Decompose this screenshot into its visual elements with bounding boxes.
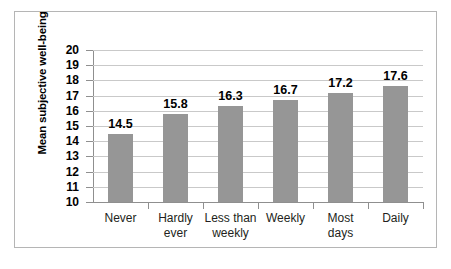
y-axis-tick-label: 15 — [57, 119, 79, 133]
x-axis-tick-mark — [148, 202, 149, 209]
y-axis-tick-label: 13 — [57, 149, 79, 163]
x-axis-tick-mark — [258, 202, 259, 209]
x-axis-category-label-line: Most — [313, 211, 368, 226]
bar[interactable] — [218, 106, 243, 202]
bar-value-label: 15.8 — [151, 97, 201, 111]
y-axis-tick-label: 20 — [57, 43, 79, 57]
bar[interactable] — [328, 93, 353, 202]
y-axis-tick-label: 11 — [57, 180, 79, 194]
x-axis-category-label[interactable]: Hardlyever — [148, 211, 203, 241]
chart-figure: Mean subjective well-being 2019181716151… — [0, 0, 451, 269]
x-axis-tick-mark — [368, 202, 369, 209]
x-axis-category-label-line: Daily — [368, 211, 423, 226]
x-axis-category-label-line: Less than — [203, 211, 258, 226]
gridline — [93, 156, 423, 157]
bar-value-label: 16.7 — [261, 83, 311, 97]
x-axis-category-label-line: weekly — [203, 226, 258, 241]
x-axis-category-label[interactable]: Daily — [368, 211, 423, 226]
x-axis-tick-mark — [423, 202, 424, 209]
gridline — [93, 141, 423, 142]
y-axis-tick-labels: 2019181716151413121110 — [57, 43, 79, 209]
bar[interactable] — [273, 100, 298, 202]
bar[interactable] — [108, 134, 133, 202]
y-axis-tick-label: 10 — [57, 195, 79, 209]
bar-value-label: 17.2 — [316, 76, 366, 90]
bar-value-label: 16.3 — [206, 89, 256, 103]
x-axis-tick-mark — [203, 202, 204, 209]
bar[interactable] — [163, 114, 188, 202]
x-axis-category-label[interactable]: Mostdays — [313, 211, 368, 241]
gridline — [93, 65, 423, 66]
x-axis-category-label[interactable]: Less thanweekly — [203, 211, 258, 241]
gridline — [93, 187, 423, 188]
bar[interactable] — [383, 86, 408, 202]
y-axis-tick-label: 14 — [57, 134, 79, 148]
x-axis-category-label-line: Hardly — [148, 211, 203, 226]
y-axis-tick-label: 16 — [57, 104, 79, 118]
x-axis-category-label-line: ever — [148, 226, 203, 241]
y-axis-tick-label: 12 — [57, 165, 79, 179]
y-axis-tick-label: 18 — [57, 73, 79, 87]
gridline — [93, 50, 423, 51]
x-axis-category-label[interactable]: Weekly — [258, 211, 313, 226]
bar-value-label: 17.6 — [371, 69, 421, 83]
chart-frame: Mean subjective well-being 2019181716151… — [14, 11, 437, 248]
gridline — [93, 96, 423, 97]
gridline — [93, 111, 423, 112]
x-axis-category-label-line: Never — [93, 211, 148, 226]
x-axis-tick-mark — [313, 202, 314, 209]
y-axis-tick-label: 19 — [57, 58, 79, 72]
bar-value-label: 14.5 — [96, 117, 146, 131]
y-axis-tick-label: 17 — [57, 89, 79, 103]
x-axis-category-label-line: Weekly — [258, 211, 313, 226]
y-axis-title: Mean subjective well-being — [36, 8, 54, 158]
gridline — [93, 172, 423, 173]
plot-area: 14.515.816.316.717.217.6 — [93, 50, 423, 202]
x-axis-category-label[interactable]: Never — [93, 211, 148, 226]
x-axis-category-label-line: days — [313, 226, 368, 241]
